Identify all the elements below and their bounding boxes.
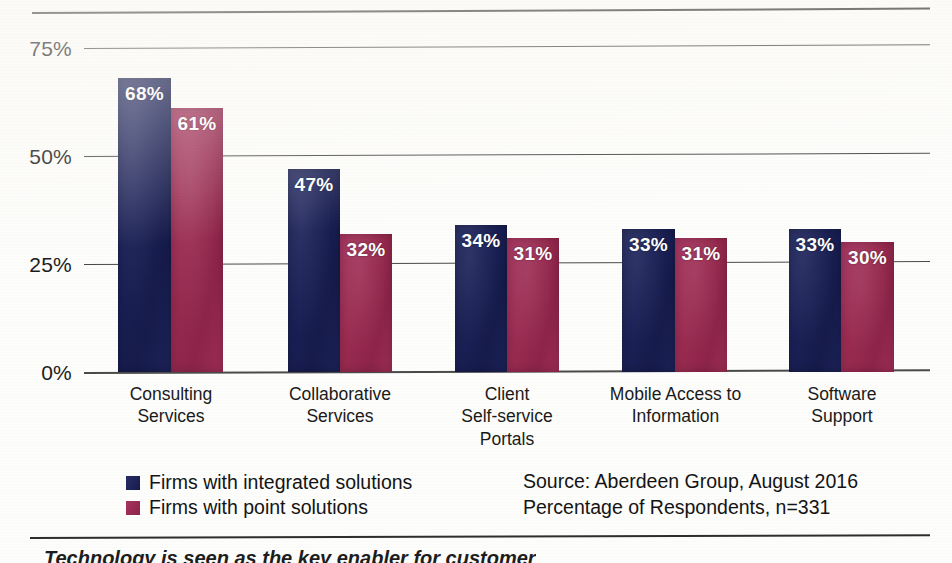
category-label-line: Services (106, 405, 236, 427)
bar-integrated-consulting-services: 68% (118, 78, 171, 372)
category-label-consulting-services: Consulting Services (106, 383, 236, 428)
bar-point-collaborative-services: 32% (340, 234, 392, 372)
category-label-line: Software (777, 383, 907, 405)
category-label-collaborative-services: Collaborative Services (275, 383, 405, 428)
category-label-line: Consulting (106, 383, 236, 405)
bar-integrated-software-support: 33% (789, 229, 841, 372)
bar-value-label: 33% (789, 235, 841, 256)
legend-label: Firms with integrated solutions (149, 473, 412, 493)
bar-value-label: 61% (171, 114, 223, 135)
source-line-1: Source: Aberdeen Group, August 2016 (523, 469, 858, 495)
category-label-mobile-access-to-information: Mobile Access to Information (598, 383, 753, 428)
bar-integrated-client-self-service-portals: 34% (455, 225, 507, 372)
category-label-line: Portals (442, 428, 572, 450)
bar-value-label: 32% (340, 240, 392, 261)
category-label-line: Services (275, 405, 405, 427)
source-note: Source: Aberdeen Group, August 2016 Perc… (523, 469, 858, 520)
plot-area: 75% 50% 25% 0% 68% 61% 47% 32% 34% 31% (0, 0, 952, 400)
category-label-software-support: Software Support (777, 383, 907, 428)
bar-value-label: 31% (507, 244, 559, 265)
category-label-line: Client (442, 383, 572, 405)
legend-swatch-maroon-icon (126, 501, 140, 515)
category-label-client-self-service-portals: Client Self-service Portals (442, 383, 572, 450)
bar-value-label: 31% (675, 244, 727, 265)
chart-legend: Firms with integrated solutions Firms wi… (126, 470, 412, 520)
bar-point-mobile-access-to-information: 31% (675, 238, 727, 372)
y-tick-label-25: 25% (10, 254, 72, 275)
bar-value-label: 34% (455, 231, 507, 252)
bar-point-client-self-service-portals: 31% (507, 238, 559, 372)
bottom-divider-rule (30, 534, 930, 539)
bar-value-label: 30% (841, 248, 894, 269)
legend-label: Firms with point solutions (149, 498, 368, 518)
bar-integrated-collaborative-services: 47% (288, 169, 340, 372)
bar-point-software-support: 30% (841, 242, 894, 372)
category-label-line: Information (598, 405, 753, 427)
bar-integrated-mobile-access-to-information: 33% (622, 229, 675, 372)
category-label-line: Collaborative (275, 383, 405, 405)
y-tick-label-50: 50% (10, 146, 72, 167)
source-line-2: Percentage of Respondents, n=331 (523, 495, 858, 521)
legend-item-integrated-solutions: Firms with integrated solutions (126, 470, 412, 495)
legend-swatch-navy-icon (126, 476, 140, 490)
category-label-line: Support (777, 405, 907, 427)
figure-caption: Technology is seen as the key enabler fo… (44, 547, 536, 563)
y-tick-label-0: 0% (10, 362, 72, 383)
category-label-line: Self-service (442, 405, 572, 427)
bar-value-label: 47% (288, 175, 340, 196)
bar-value-label: 33% (622, 235, 675, 256)
gridline-75 (84, 44, 930, 49)
y-tick-label-75: 75% (10, 38, 72, 59)
bar-value-label: 68% (118, 84, 171, 105)
chart-figure: 75% 50% 25% 0% 68% 61% 47% 32% 34% 31% (0, 0, 952, 563)
category-label-line: Mobile Access to (598, 383, 753, 405)
bar-point-consulting-services: 61% (171, 108, 223, 372)
legend-item-point-solutions: Firms with point solutions (126, 495, 412, 520)
